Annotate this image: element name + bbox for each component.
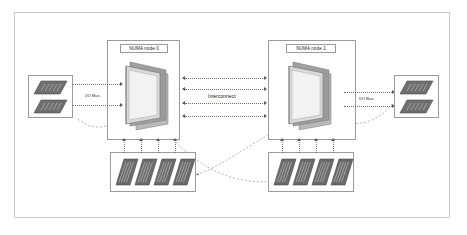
memory-left-channel-arrow-2 xyxy=(139,138,143,141)
io-bus-left-label: I/O Bus xyxy=(84,93,101,99)
io-bus-right-label: I/O Bus xyxy=(358,96,375,102)
interconnect-arrow-4-right xyxy=(264,114,267,118)
memory-right-channel-3 xyxy=(316,140,317,153)
io-bus-right-line-1 xyxy=(344,92,394,93)
interconnect-label: Interconnect xyxy=(207,93,237,99)
interconnect-arrow-3-left xyxy=(182,101,185,105)
memory-right-channel-arrow-4 xyxy=(331,138,335,141)
io-bus-left-arrow-1 xyxy=(120,82,123,86)
interconnect-arrow-1-left xyxy=(182,76,185,80)
interconnect-line-1 xyxy=(185,78,265,79)
diagram-canvas: NUMA node 0 I/O Bus NUMA node 1 xyxy=(0,0,467,235)
interconnect-line-3 xyxy=(185,103,265,104)
interconnect-line-2 xyxy=(185,89,265,90)
memory-module-left-4[interactable] xyxy=(172,158,196,186)
interconnect-arrow-2-right xyxy=(264,87,267,91)
memory-left-channel-2 xyxy=(141,140,142,153)
io-device-right-1[interactable] xyxy=(399,80,434,96)
memory-left-channel-1 xyxy=(124,140,125,153)
memory-left-channel-4 xyxy=(175,140,176,153)
io-bus-left-line-1 xyxy=(72,84,122,85)
memory-right-channel-arrow-1 xyxy=(280,138,284,141)
memory-right-channel-4 xyxy=(333,140,334,153)
io-bus-left-line-2 xyxy=(72,105,122,106)
interconnect-arrow-3-right xyxy=(264,101,267,105)
memory-right-channel-2 xyxy=(299,140,300,153)
numa-node-0-label: NUMA node 0 xyxy=(120,44,168,53)
memory-left-channel-3 xyxy=(158,140,159,153)
cpu-node0[interactable] xyxy=(122,60,178,132)
memory-right-channel-arrow-3 xyxy=(314,138,318,141)
io-bus-right-line-2 xyxy=(344,106,394,107)
memory-left-channel-arrow-3 xyxy=(156,138,160,141)
io-device-left-1[interactable] xyxy=(33,80,68,96)
memory-left-channel-arrow-1 xyxy=(122,138,126,141)
memory-right-channel-arrow-2 xyxy=(297,138,301,141)
page-frame xyxy=(14,12,450,218)
io-device-left-2[interactable] xyxy=(33,99,68,115)
interconnect-arrow-1-right xyxy=(264,76,267,80)
cpu-node1[interactable] xyxy=(285,60,341,132)
interconnect-line-4 xyxy=(185,116,265,117)
memory-right-channel-1 xyxy=(282,140,283,153)
memory-module-right-4[interactable] xyxy=(330,158,354,186)
numa-node-1-label: NUMA node 1 xyxy=(286,44,336,53)
interconnect-arrow-4-left xyxy=(182,114,185,118)
io-bus-left-arrow-2 xyxy=(120,103,123,107)
io-device-right-2[interactable] xyxy=(399,99,434,115)
memory-left-channel-arrow-4 xyxy=(173,138,177,141)
interconnect-arrow-2-left xyxy=(182,87,185,91)
